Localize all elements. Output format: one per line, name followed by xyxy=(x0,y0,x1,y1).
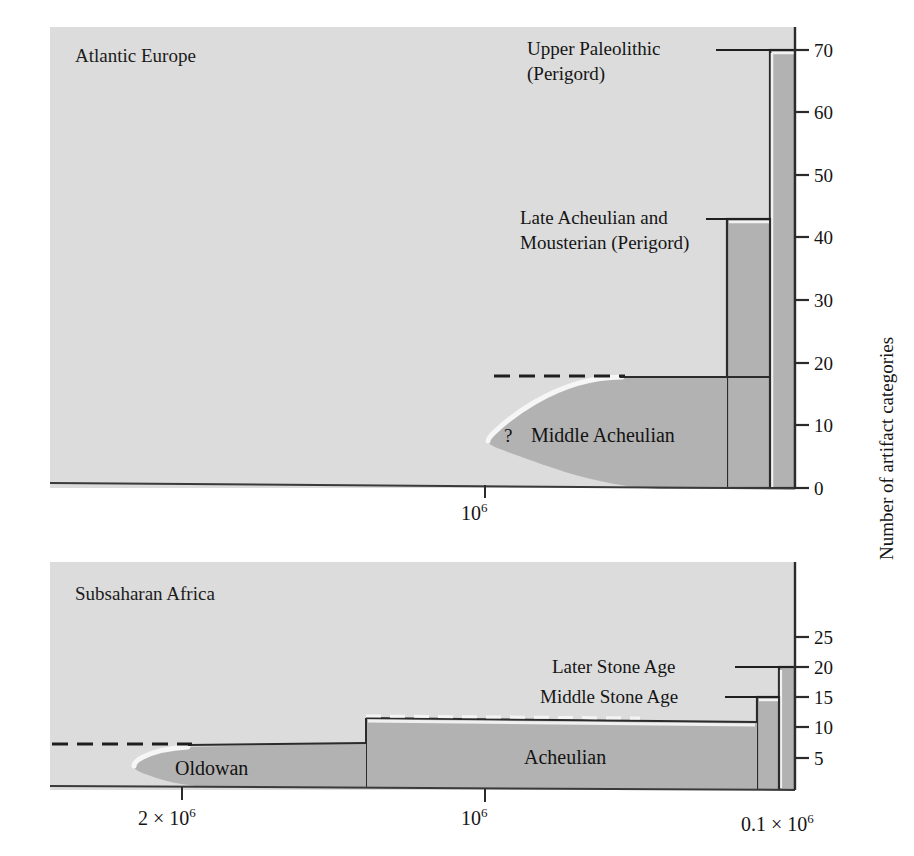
bar-upper-paleolithic xyxy=(770,50,795,488)
label-acheulian: Acheulian xyxy=(524,746,606,768)
label-middle-acheulian: Middle Acheulian xyxy=(531,424,675,446)
ytick-label-15: 15 xyxy=(814,687,833,708)
bottom-panel: 25 20 15 10 5 2 × 106 106 0.1 × 106 Subs… xyxy=(50,562,833,835)
ytick-label-20: 20 xyxy=(814,657,833,678)
bar-middle-stone-age xyxy=(757,697,779,790)
ytick-label-60: 60 xyxy=(814,102,833,123)
label-late-acheulian-line1: Late Acheulian and xyxy=(520,207,668,228)
bottom-panel-xtick-label-2e6: 2 × 106 xyxy=(138,805,196,829)
xtick-mantissa: 10 xyxy=(787,813,807,835)
xtick-prefix: 2 × xyxy=(138,807,169,829)
label-upper-paleolithic-line1: Upper Paleolithic xyxy=(527,38,661,59)
label-later-stone-age: Later Stone Age xyxy=(552,656,675,677)
label-late-acheulian-line2: Mousterian (Perigord) xyxy=(520,232,689,254)
ytick-label-10: 10 xyxy=(814,717,833,738)
bottom-panel-xtick-label-1e6: 106 xyxy=(461,805,488,829)
ytick-label-0: 0 xyxy=(814,478,824,499)
ytick-label-50: 50 xyxy=(814,165,833,186)
label-middle-stone-age: Middle Stone Age xyxy=(540,686,678,707)
label-middle-acheulian-question: ? xyxy=(504,425,512,446)
artifact-categories-figure: 70 60 50 40 30 20 10 0 106 Atlantic Euro… xyxy=(0,0,914,856)
ytick-label-10: 10 xyxy=(814,415,833,436)
ytick-label-40: 40 xyxy=(814,227,833,248)
top-panel-xtick-label-1e6: 106 xyxy=(461,500,488,524)
xtick-mantissa: 10 xyxy=(461,502,481,524)
bottom-panel-yticks xyxy=(795,637,809,758)
ytick-label-30: 30 xyxy=(814,290,833,311)
xtick-exponent: 6 xyxy=(807,811,814,826)
xtick-mantissa: 10 xyxy=(169,807,189,829)
label-upper-paleolithic-line2: (Perigord) xyxy=(527,63,605,85)
bottom-panel-xtick-label-0p1e6: 0.1 × 106 xyxy=(741,811,814,835)
bottom-panel-title: Subsaharan Africa xyxy=(75,583,215,604)
top-panel: 70 60 50 40 30 20 10 0 106 Atlantic Euro… xyxy=(50,27,833,524)
y-axis-title: Number of artifact categories xyxy=(876,337,897,560)
ytick-label-5: 5 xyxy=(814,748,824,769)
top-panel-title: Atlantic Europe xyxy=(75,45,196,66)
xtick-exponent: 6 xyxy=(189,805,196,820)
figure-root: 70 60 50 40 30 20 10 0 106 Atlantic Euro… xyxy=(0,0,914,856)
xtick-prefix: 0.1 × xyxy=(741,813,787,835)
xtick-exponent: 6 xyxy=(481,500,488,515)
ytick-label-20: 20 xyxy=(814,353,833,374)
label-oldowan: Oldowan xyxy=(175,757,248,779)
top-panel-yticks xyxy=(795,50,809,488)
ytick-label-25: 25 xyxy=(814,627,833,648)
bar-late-acheulian-mousterian xyxy=(727,219,770,488)
ytick-label-70: 70 xyxy=(814,40,833,61)
xtick-exponent: 6 xyxy=(481,805,488,820)
xtick-mantissa: 10 xyxy=(461,807,481,829)
